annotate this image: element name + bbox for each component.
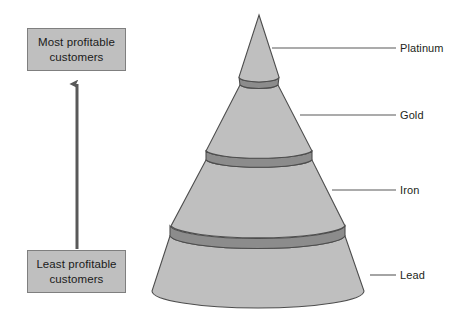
tier-label-lead: Lead — [400, 269, 425, 281]
most-profitable-customers-box: Most profitable customers — [27, 28, 126, 71]
most-profitable-line1: Most profitable — [38, 36, 115, 48]
tier-label-platinum: Platinum — [400, 42, 444, 54]
least-profitable-customers-box: Least profitable customers — [27, 250, 126, 293]
diagram-canvas: Most profitable customers Least profitab… — [0, 0, 463, 325]
iron-body — [171, 160, 345, 238]
cone-tier-gold — [206, 77, 312, 158]
most-profitable-label: Most profitable customers — [32, 35, 121, 65]
least-profitable-line2: customers — [50, 273, 104, 285]
cone-tier-iron — [171, 151, 345, 238]
tier-label-gold: Gold — [400, 109, 424, 121]
least-profitable-line1: Least profitable — [36, 258, 116, 270]
most-profitable-line2: customers — [50, 51, 104, 63]
least-profitable-label: Least profitable customers — [32, 257, 121, 287]
gold-body — [206, 85, 312, 158]
tier-label-iron: Iron — [400, 184, 419, 196]
